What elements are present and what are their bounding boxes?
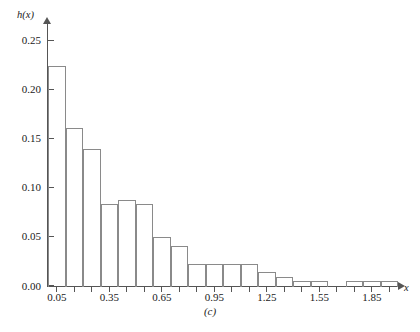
histogram-bar — [188, 264, 206, 287]
histogram-bar — [83, 149, 101, 287]
histogram-bar — [276, 277, 294, 287]
histogram-bar — [136, 204, 154, 287]
histogram-bar — [48, 66, 66, 287]
histogram-bar — [241, 264, 259, 287]
histogram-bar — [223, 264, 241, 287]
histogram-bars — [0, 0, 420, 332]
histogram-bar — [346, 281, 364, 287]
histogram-figure: h(x) x 0.000.050.100.150.200.25 0.050.35… — [0, 0, 420, 332]
histogram-bar — [363, 281, 381, 287]
histogram-bar — [293, 281, 311, 287]
histogram-bar — [118, 200, 136, 287]
histogram-bar — [206, 264, 224, 287]
histogram-bar — [153, 237, 171, 287]
histogram-bar — [171, 246, 189, 287]
figure-caption: (c) — [0, 306, 420, 317]
histogram-bar — [311, 281, 329, 287]
histogram-bar — [66, 128, 84, 287]
histogram-bar — [381, 281, 399, 287]
histogram-bar — [101, 204, 119, 287]
histogram-bar — [258, 272, 276, 287]
